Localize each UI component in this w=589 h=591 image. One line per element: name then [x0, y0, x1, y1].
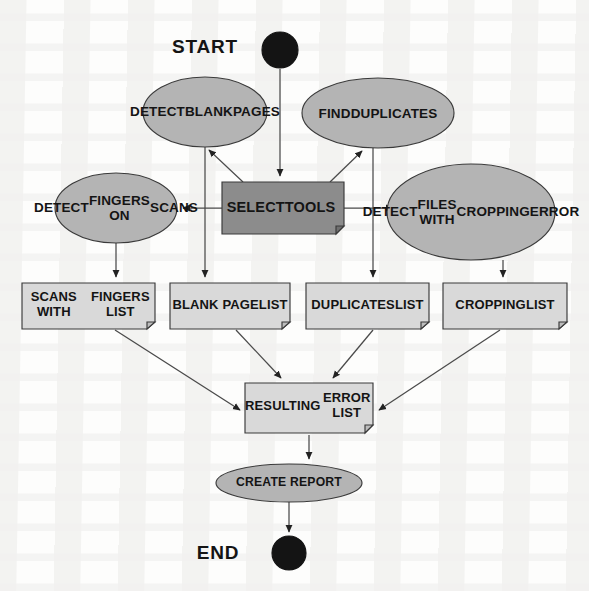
- node-cropping-list: [443, 283, 567, 329]
- edge-select-tools-to-find-duplicates: [330, 151, 362, 182]
- node-detect-blank-pages: [143, 77, 267, 147]
- cropping-list-fold: [559, 322, 567, 329]
- node-duplicates-list: [306, 283, 429, 329]
- edge-cropping-list-to-resulting-error-list: [379, 330, 500, 410]
- flowchart-diagram: START DETECT BLANK PAGES FIND DUPLICATES…: [0, 0, 589, 591]
- node-resulting-error-list: [245, 383, 373, 433]
- duplicates-list-fold: [421, 322, 429, 329]
- node-detect-fingers-on-scans: [55, 173, 177, 243]
- scans-with-fingers-list-fold: [147, 322, 155, 329]
- diagram-vector-layer: [0, 0, 589, 591]
- node-select-tools: [222, 182, 344, 234]
- edge-blank-page-list-to-resulting-error-list: [236, 330, 281, 378]
- blank-page-list-fold: [282, 322, 290, 329]
- node-blank-page-list: [170, 283, 290, 329]
- end-terminal-node: [272, 536, 306, 570]
- node-scans-with-fingers-list: [22, 283, 155, 329]
- start-terminal-node: [262, 32, 298, 68]
- edge-scans-list-to-resulting-error-list: [115, 330, 240, 410]
- node-create-report: [216, 464, 362, 502]
- select-tools-fold: [336, 226, 344, 234]
- resulting-error-list-fold: [365, 425, 373, 433]
- node-find-duplicates: [302, 78, 454, 148]
- edge-select-tools-to-detect-blank-pages: [209, 150, 243, 182]
- node-detect-files-with-cropping-error: [387, 164, 555, 260]
- edge-duplicates-list-to-resulting-error-list: [333, 330, 373, 378]
